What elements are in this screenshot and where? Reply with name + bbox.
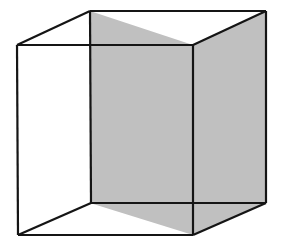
figure-canvas: Line drawing of a transparent cube seen …: [0, 0, 281, 249]
right-side-face: [193, 11, 266, 235]
far-left-edge: [90, 11, 91, 203]
necker-cube-illustration: [0, 0, 281, 249]
near-left-edge: [17, 45, 18, 235]
